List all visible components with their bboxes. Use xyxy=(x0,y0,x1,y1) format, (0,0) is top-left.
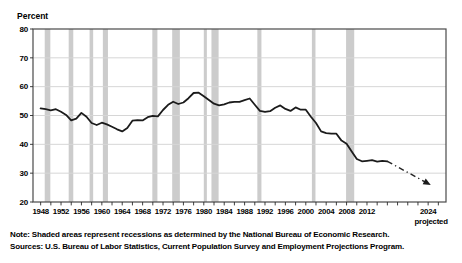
y-tick-label: 60 xyxy=(20,82,29,91)
y-tick-label: 20 xyxy=(20,198,29,207)
y-axis-unit-label: Percent xyxy=(17,11,48,21)
sources-text: Sources: U.S. Bureau of Labor Statistics… xyxy=(10,241,460,253)
x-tick-label: 1972 xyxy=(155,207,172,216)
x-tick-label: 1964 xyxy=(114,207,131,216)
x-tick-label: 1984 xyxy=(216,207,233,216)
chart-footnotes: Note: Shaded areas represent recessions … xyxy=(10,229,460,252)
x-tick-label: 1968 xyxy=(134,207,151,216)
x-tick-label: 1960 xyxy=(94,207,111,216)
chart-figure: 2030405060708019481952195619601964196819… xyxy=(0,0,462,263)
projection-line xyxy=(387,161,428,183)
note-text: Note: Shaded areas represent recessions … xyxy=(10,229,460,241)
y-tick-label: 40 xyxy=(20,140,29,149)
y-tick-label: 70 xyxy=(20,54,29,63)
x-tick-label: 1948 xyxy=(32,207,49,216)
x-tick-label: 2004 xyxy=(318,207,335,216)
x-tick-label: 2012 xyxy=(359,207,376,216)
x-tick-label: 1976 xyxy=(175,207,192,216)
x-tick-label: 1980 xyxy=(196,207,213,216)
x-tick-label: 1956 xyxy=(73,207,90,216)
y-tick-label: 30 xyxy=(20,169,29,178)
x-tick-label: 2008 xyxy=(338,207,355,216)
x-tick-label: 1952 xyxy=(53,207,70,216)
y-tick-label: 50 xyxy=(20,111,29,120)
x-tick-label: 1996 xyxy=(277,207,294,216)
projected-tick-label: 2024 xyxy=(420,207,437,216)
x-tick-label: 1988 xyxy=(236,207,253,216)
y-tick-label: 80 xyxy=(20,25,29,34)
projected-sublabel: projected xyxy=(415,217,449,226)
chart-svg: 2030405060708019481952195619601964196819… xyxy=(0,0,462,263)
x-tick-label: 1992 xyxy=(257,207,274,216)
x-tick-label: 2000 xyxy=(298,207,315,216)
